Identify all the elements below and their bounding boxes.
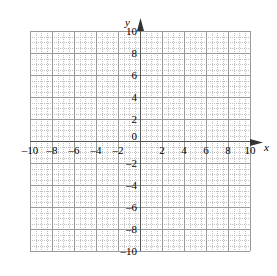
y-tick-label: 6	[132, 70, 138, 81]
y-tick-label: –6	[126, 202, 137, 213]
x-tick-label: –2	[113, 145, 124, 156]
y-axis-line	[140, 31, 141, 251]
x-tick-label: 4	[181, 145, 187, 156]
y-tick-label: –8	[126, 224, 137, 235]
y-tick-label: 4	[132, 92, 138, 103]
x-tick-label: –4	[91, 145, 102, 156]
y-tick-label: 10	[126, 26, 137, 37]
x-tick-label: 2	[159, 145, 165, 156]
x-tick-label: 10	[245, 145, 256, 156]
x-tick-label: –6	[69, 145, 80, 156]
x-tick-label: 8	[225, 145, 231, 156]
y-tick-label: –10	[121, 246, 138, 257]
x-tick-label: 6	[203, 145, 209, 156]
x-tick-label: –10	[22, 145, 39, 156]
y-tick-label: 8	[132, 48, 138, 59]
grid-line-major-horizontal	[30, 251, 250, 252]
y-tick-label: –4	[126, 180, 137, 191]
y-tick-label: 2	[132, 114, 138, 125]
y-tick-label: –2	[126, 158, 137, 169]
x-tick-label: –8	[47, 145, 58, 156]
coordinate-plane-graph: x y 0 –10–8–6–4–2246810 108642–2–4–6–8–1…	[0, 0, 277, 276]
x-axis-label: x	[264, 142, 269, 153]
origin-tick-label: 0	[132, 131, 138, 142]
